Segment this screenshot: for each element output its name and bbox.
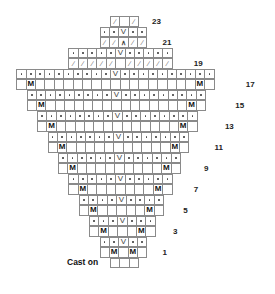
decrease-icon: ∕ — [110, 60, 111, 67]
decrease-stitch: ∕ — [129, 16, 139, 27]
chart-row-2: V — [100, 237, 147, 248]
row-number-label: 7 — [194, 185, 198, 194]
make-one-symbol: M — [80, 185, 87, 193]
decrease-icon: ∕ — [167, 60, 168, 67]
purl-stitch — [162, 174, 172, 185]
knit-stitch — [204, 79, 214, 90]
make-one-symbol: M — [146, 206, 153, 214]
row-number-label: 15 — [235, 101, 244, 110]
make-one-symbol: M — [111, 248, 118, 256]
decrease-icon: ∕ — [129, 60, 130, 67]
v-stitch-icon: V — [117, 154, 122, 162]
knit-stitch — [196, 100, 206, 111]
knit-stitch — [145, 226, 155, 237]
purl-stitch — [179, 132, 189, 143]
make-one-symbol: M — [138, 227, 145, 235]
decrease-icon: ∕ — [142, 39, 143, 46]
row-number-label: 1 — [163, 248, 167, 257]
v-stitch-icon: V — [113, 70, 118, 78]
cast-on-row — [110, 258, 138, 269]
chart-row-16: V — [27, 90, 205, 101]
knit-stitch — [154, 205, 164, 216]
v-stitch-icon: V — [114, 91, 119, 99]
row-number-label: 5 — [183, 206, 187, 215]
purl-stitch — [145, 216, 155, 227]
chart-row-22: V — [100, 27, 147, 38]
make-one-symbol: M — [28, 80, 35, 88]
chart-row-14: V — [37, 111, 197, 122]
chart-row-15: MM — [27, 100, 205, 111]
chart-row-20: V — [68, 48, 171, 59]
decrease-icon: ∕ — [114, 39, 115, 46]
make-one-symbol: M — [48, 122, 55, 130]
purl-stitch — [196, 90, 206, 101]
chart-row-8: V — [68, 174, 171, 185]
row-number-label: 23 — [152, 17, 161, 26]
v-stitch-icon: V — [118, 49, 123, 57]
knit-stitch — [171, 163, 181, 174]
chart-row-21: ∕∕∧∕∕ — [100, 37, 147, 48]
row-number-label: 21 — [163, 38, 172, 47]
chart-row-13: MM — [37, 121, 197, 132]
knit-stitch — [137, 247, 147, 258]
make-one-symbol: M — [59, 143, 66, 151]
chart-row-4: V — [89, 216, 155, 227]
purl-stitch — [154, 195, 164, 206]
decrease-stitch: ∕ — [137, 37, 147, 48]
decrease-icon: ∕ — [133, 18, 134, 25]
purl-stitch — [137, 27, 147, 38]
chart-row-5: MM — [79, 205, 164, 216]
chart-row-6: V — [79, 195, 164, 206]
make-one-symbol: M — [69, 164, 76, 172]
row-number-label: 17 — [246, 80, 255, 89]
decrease-icon: ∕ — [92, 60, 93, 67]
chart-row-17: MM — [16, 79, 213, 90]
make-one-symbol: M — [171, 143, 178, 151]
decrease-icon: ∕ — [101, 60, 102, 67]
decrease-stitch: ∕ — [162, 58, 172, 69]
make-one-symbol: M — [197, 80, 204, 88]
knitting-chart: Cast on ∕∕23V∕∕∧∕∕21V∕∕∕∕∕∕∕∕∕∕19VMM17VM… — [0, 0, 275, 294]
knit-stitch — [129, 258, 139, 269]
knit-stitch — [162, 184, 172, 195]
v-stitch-icon: V — [116, 133, 121, 141]
chart-row-9: MM — [58, 163, 180, 174]
decrease-icon: ∕ — [157, 60, 158, 67]
row-number-label: 19 — [194, 59, 203, 68]
chart-row-3: MM — [89, 226, 155, 237]
cast-on-label: Cast on — [67, 257, 98, 267]
v-stitch-icon: V — [121, 28, 126, 36]
decrease-icon: ∕ — [115, 18, 116, 25]
purl-stitch — [171, 153, 181, 164]
purl-stitch — [137, 237, 147, 248]
make-one-symbol: M — [100, 227, 107, 235]
decrease-icon: ∕ — [82, 60, 83, 67]
purl-stitch — [162, 48, 172, 59]
double-decrease-icon: ∧ — [121, 39, 126, 46]
purl-stitch — [204, 69, 214, 80]
make-one-symbol: M — [163, 164, 170, 172]
knit-stitch — [179, 142, 189, 153]
purl-stitch — [187, 111, 197, 122]
row-number-label: 9 — [204, 164, 208, 173]
v-stitch-icon: V — [121, 238, 126, 246]
chart-row-23: ∕∕ — [110, 16, 138, 27]
make-one-symbol: M — [130, 248, 137, 256]
knit-stitch — [187, 121, 197, 132]
row-number-label: 3 — [173, 227, 177, 236]
chart-row-10: V — [58, 153, 180, 164]
make-one-symbol: M — [38, 101, 45, 109]
decrease-icon: ∕ — [73, 60, 74, 67]
make-one-symbol: M — [90, 206, 97, 214]
chart-row-11: MM — [48, 142, 189, 153]
v-stitch-icon: V — [120, 217, 125, 225]
decrease-icon: ∕ — [139, 60, 140, 67]
chart-row-7: MM — [68, 184, 171, 195]
make-one-symbol: M — [155, 185, 162, 193]
chart-row-18: V — [16, 69, 213, 80]
make-one-symbol: M — [188, 101, 195, 109]
row-number-label: 11 — [215, 143, 223, 152]
decrease-icon: ∕ — [148, 60, 149, 67]
make-one-symbol: M — [180, 122, 187, 130]
decrease-icon: ∕ — [132, 39, 133, 46]
